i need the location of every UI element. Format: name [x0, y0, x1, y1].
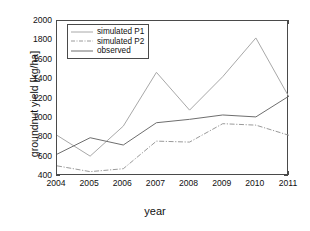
- legend-item-label: simulated P2: [97, 37, 144, 47]
- chart-figure: groundnut yield [kg/ha] year 20001800160…: [0, 0, 310, 231]
- legend-line-icon: [71, 37, 93, 45]
- legend-line-icon: [71, 28, 93, 36]
- y-tick-label: 800: [12, 131, 52, 141]
- y-tick-label: 1000: [12, 112, 52, 122]
- legend-item: simulated P1: [71, 27, 144, 37]
- x-tick-label: 2011: [268, 178, 308, 188]
- legend-item-label: observed: [97, 46, 131, 56]
- y-tick-label: 2000: [12, 15, 52, 25]
- legend-item: simulated P2: [71, 37, 144, 47]
- y-tick-label: 1200: [12, 93, 52, 103]
- y-tick-label: 1800: [12, 34, 52, 44]
- y-tick-label: 1400: [12, 73, 52, 83]
- y-tick-label: 1600: [12, 54, 52, 64]
- legend-item: observed: [71, 46, 144, 56]
- series-line: [57, 124, 289, 172]
- legend-item-label: simulated P1: [97, 27, 144, 37]
- y-tick-label: 600: [12, 151, 52, 161]
- legend-line-icon: [71, 47, 93, 55]
- series-line: [57, 96, 289, 154]
- legend: simulated P1 simulated P2 observed: [67, 24, 149, 59]
- x-axis-label: year: [0, 205, 310, 217]
